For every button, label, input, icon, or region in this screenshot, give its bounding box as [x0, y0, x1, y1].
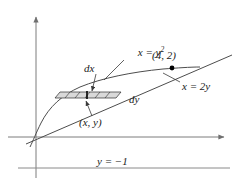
strip-body	[55, 92, 121, 98]
point-marker-4-2	[170, 66, 175, 71]
labels-group: x = y2 x = 2y (4, 2) dx dy (x, y) y = −1	[79, 42, 210, 167]
label-point-4-2: (4, 2)	[152, 49, 176, 62]
label-y-equals-minus-one: y = −1	[96, 155, 128, 167]
label-point-xy: (x, y)	[79, 116, 102, 129]
math-figure: x = y2 x = 2y (4, 2) dx dy (x, y) y = −1	[0, 0, 237, 190]
label-dx: dx	[84, 62, 95, 74]
area-strip	[55, 91, 121, 99]
leader-point-xy	[86, 101, 92, 116]
label-dy: dy	[129, 93, 140, 105]
label-line: x = 2y	[181, 80, 210, 92]
figure-canvas: x = y2 x = 2y (4, 2) dx dy (x, y) y = −1	[0, 0, 237, 190]
